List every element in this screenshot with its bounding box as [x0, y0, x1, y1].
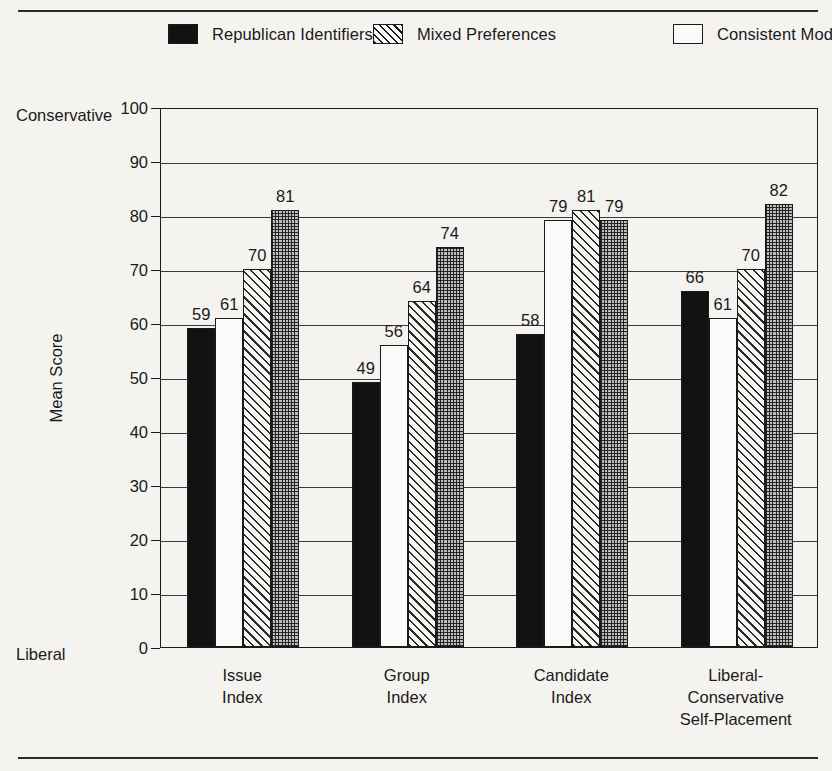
- bar-2-3[interactable]: 79: [600, 220, 628, 647]
- plot-area: 59617081495664745879817966617082: [160, 108, 818, 648]
- y-tick-mark-100: [151, 108, 160, 109]
- bar-groups: 59617081495664745879817966617082: [161, 109, 817, 647]
- y-tick-mark-60: [151, 324, 160, 325]
- category-label-line: Conservative: [680, 686, 792, 708]
- bar-slot: 56: [380, 109, 408, 647]
- y-axis-title: Mean Score: [47, 334, 66, 423]
- y-tick-mark-0: [151, 648, 160, 649]
- y-tick-label-10: 10: [106, 585, 148, 604]
- chart-legend: Republican IdentifiersMixed PreferencesC…: [168, 20, 832, 48]
- bar-group-0: 59617081: [187, 109, 299, 647]
- bar-slot: 82: [765, 109, 793, 647]
- bar-0-1[interactable]: 61: [215, 318, 243, 647]
- bar-value-label: 56: [385, 322, 403, 341]
- y-tick-label-30: 30: [106, 477, 148, 496]
- bar-3-3[interactable]: 82: [765, 204, 793, 647]
- legend-item-0[interactable]: Republican Identifiers: [168, 24, 373, 44]
- y-tick-mark-50: [151, 378, 160, 379]
- category-label-line: Index: [222, 686, 262, 708]
- bar-value-label: 49: [357, 359, 375, 378]
- bar-value-label: 66: [686, 268, 704, 287]
- bar-slot: 79: [600, 109, 628, 647]
- bar-0-2[interactable]: 70: [243, 269, 271, 647]
- bar-value-label: 82: [770, 181, 788, 200]
- x-axis-category-label-2: CandidateIndex: [534, 664, 609, 708]
- bar-value-label: 61: [714, 295, 732, 314]
- bar-value-label: 58: [521, 311, 539, 330]
- bar-value-label: 79: [549, 197, 567, 216]
- bar-slot: 66: [681, 109, 709, 647]
- bar-value-label: 79: [605, 197, 623, 216]
- y-tick-mark-10: [151, 594, 160, 595]
- bar-value-label: 70: [248, 246, 266, 265]
- figure-top-rule: [18, 10, 818, 12]
- y-tick-label-70: 70: [106, 261, 148, 280]
- y-tick-mark-30: [151, 486, 160, 487]
- bar-slot: 79: [544, 109, 572, 647]
- bar-slot: 70: [243, 109, 271, 647]
- legend-item-label: Consistent Moderates: [717, 25, 832, 44]
- bar-slot: 70: [737, 109, 765, 647]
- axis-annotation-liberal: Liberal: [16, 645, 66, 664]
- x-axis-category-label-3: Liberal-ConservativeSelf-Placement: [680, 664, 792, 730]
- empty-white-square-icon: [673, 24, 703, 44]
- figure-bottom-rule: [18, 757, 818, 759]
- bar-slot: 59: [187, 109, 215, 647]
- bar-1-1[interactable]: 56: [380, 345, 408, 647]
- y-tick-label-100: 100: [106, 99, 148, 118]
- y-tick-label-20: 20: [106, 531, 148, 550]
- bar-slot: 74: [436, 109, 464, 647]
- x-axis-category-label-1: GroupIndex: [384, 664, 430, 708]
- y-tick-label-60: 60: [106, 315, 148, 334]
- bar-group-2: 58798179: [516, 109, 628, 647]
- bar-0-0[interactable]: 59: [187, 328, 215, 647]
- bar-1-2[interactable]: 64: [408, 301, 436, 647]
- solid-black-square-icon: [168, 24, 198, 44]
- y-tick-mark-90: [151, 162, 160, 163]
- bar-slot: 58: [516, 109, 544, 647]
- legend-item-label: Mixed Preferences: [417, 25, 556, 44]
- y-tick-label-0: 0: [106, 639, 148, 658]
- bar-2-2[interactable]: 81: [572, 210, 600, 647]
- category-label-line: Index: [534, 686, 609, 708]
- bar-3-2[interactable]: 70: [737, 269, 765, 647]
- bar-slot: 81: [572, 109, 600, 647]
- bar-value-label: 70: [742, 246, 760, 265]
- bar-value-label: 74: [441, 224, 459, 243]
- bar-1-0[interactable]: 49: [352, 382, 380, 647]
- bar-2-1[interactable]: 79: [544, 220, 572, 647]
- y-tick-mark-40: [151, 432, 160, 433]
- bar-value-label: 81: [276, 187, 294, 206]
- legend-item-label: Republican Identifiers: [212, 25, 373, 44]
- bar-slot: 61: [709, 109, 737, 647]
- y-tick-label-40: 40: [106, 423, 148, 442]
- bar-1-3[interactable]: 74: [436, 247, 464, 647]
- bar-value-label: 61: [220, 295, 238, 314]
- y-tick-mark-20: [151, 540, 160, 541]
- bar-0-3[interactable]: 81: [271, 210, 299, 647]
- legend-item-2[interactable]: Consistent Moderates: [673, 24, 832, 44]
- legend-item-1[interactable]: Mixed Preferences: [373, 24, 673, 44]
- bar-group-1: 49566474: [352, 109, 464, 647]
- category-label-line: Group: [384, 664, 430, 686]
- bar-3-1[interactable]: 61: [709, 318, 737, 647]
- bar-3-0[interactable]: 66: [681, 291, 709, 647]
- bar-value-label: 81: [577, 187, 595, 206]
- bar-value-label: 59: [192, 305, 210, 324]
- category-label-line: Index: [384, 686, 430, 708]
- diagonal-hatch-square-icon: [373, 24, 403, 44]
- y-tick-label-50: 50: [106, 369, 148, 388]
- y-tick-mark-80: [151, 216, 160, 217]
- category-label-line: Issue: [222, 664, 262, 686]
- category-label-line: Self-Placement: [680, 708, 792, 730]
- y-tick-label-90: 90: [106, 153, 148, 172]
- bar-group-3: 66617082: [681, 109, 793, 647]
- bar-value-label: 64: [413, 278, 431, 297]
- bar-slot: 61: [215, 109, 243, 647]
- y-tick-label-80: 80: [106, 207, 148, 226]
- category-label-line: Candidate: [534, 664, 609, 686]
- x-axis-category-label-0: IssueIndex: [222, 664, 262, 708]
- axis-annotation-conservative: Conservative: [16, 106, 112, 125]
- bar-slot: 64: [408, 109, 436, 647]
- bar-2-0[interactable]: 58: [516, 334, 544, 647]
